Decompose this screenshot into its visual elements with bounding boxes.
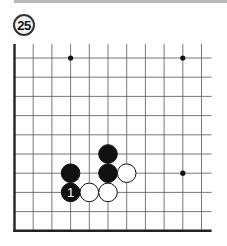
- white-stone[interactable]: [99, 183, 118, 202]
- black-stone[interactable]: [99, 164, 118, 183]
- white-stone[interactable]: [117, 164, 136, 183]
- star-point: [68, 55, 73, 60]
- black-stone[interactable]: [99, 145, 118, 164]
- black-stone[interactable]: [61, 164, 80, 183]
- go-board[interactable]: 1: [0, 0, 227, 246]
- star-point: [180, 171, 185, 176]
- star-point: [180, 55, 185, 60]
- stone-move-number: 1: [67, 185, 74, 200]
- white-stone[interactable]: [80, 183, 99, 202]
